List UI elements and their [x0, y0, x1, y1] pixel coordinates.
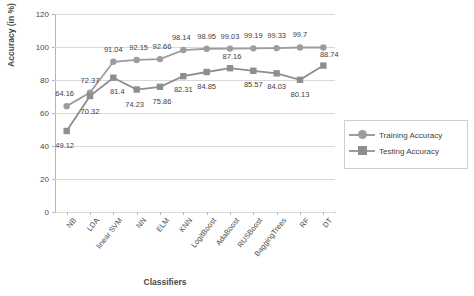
x-tick-mark — [113, 212, 114, 215]
data-point-label: 81.4 — [110, 86, 125, 95]
data-point-label: 92.66 — [153, 42, 172, 51]
chart-container: Accuracy (in %) Classifiers 020406080100… — [0, 0, 474, 296]
data-point-label: 74.23 — [125, 99, 144, 108]
x-tick-mark — [207, 212, 208, 215]
data-point-label: 82.31 — [174, 85, 193, 94]
data-point-marker — [227, 65, 233, 71]
data-point-marker — [157, 56, 163, 62]
legend-marker-square-icon — [349, 146, 375, 156]
data-point-marker — [273, 70, 279, 76]
x-tick-mark — [277, 212, 278, 215]
data-point-marker — [297, 44, 303, 50]
data-point-label: 49.12 — [55, 140, 74, 149]
data-point-label: 84.03 — [267, 82, 286, 91]
legend-item-training[interactable]: Training Accuracy — [349, 130, 463, 140]
legend-marker-circle-icon — [349, 130, 375, 140]
data-point-label: 92.15 — [129, 42, 148, 51]
data-point-label: 72.37 — [81, 75, 100, 84]
legend-label-testing: Testing Accuracy — [379, 147, 439, 156]
data-point-marker — [203, 69, 209, 75]
data-point-label: 91.04 — [104, 44, 123, 53]
legend-label-training: Training Accuracy — [379, 131, 442, 140]
x-tick-mark — [253, 212, 254, 215]
series-line — [67, 47, 324, 106]
data-point-label: 98.14 — [172, 33, 191, 42]
x-tick-label: DT — [321, 216, 334, 229]
x-tick-label: RF — [298, 216, 311, 229]
data-point-label: 70.32 — [81, 106, 100, 115]
data-point-marker — [133, 86, 139, 92]
x-tick-label: NB — [64, 216, 78, 230]
legend-item-testing[interactable]: Testing Accuracy — [349, 146, 463, 156]
data-point-marker — [250, 45, 256, 51]
x-tick-mark — [230, 212, 231, 215]
x-tick-label: KNN — [178, 216, 195, 234]
data-point-marker — [110, 74, 116, 80]
data-point-marker — [180, 47, 186, 53]
y-tick-label: 20 — [40, 175, 49, 184]
x-tick-label: LDA — [85, 216, 101, 233]
data-point-label: 87.16 — [223, 52, 242, 61]
data-point-marker — [297, 77, 303, 83]
series-line — [67, 66, 324, 131]
y-tick-label: 0 — [45, 208, 49, 217]
data-point-label: 84.85 — [197, 81, 216, 90]
data-point-label: 99.7 — [293, 30, 308, 39]
data-point-marker — [87, 93, 93, 99]
data-point-marker — [133, 57, 139, 63]
data-point-label: 88.74 — [320, 49, 339, 58]
data-point-label: 99.33 — [267, 31, 286, 40]
x-axis-title: Classifiers — [0, 277, 330, 287]
data-point-label: 99.19 — [244, 31, 263, 40]
data-point-marker — [203, 46, 209, 52]
x-tick-mark — [160, 212, 161, 215]
x-tick-mark — [137, 212, 138, 215]
x-tick-mark — [323, 212, 324, 215]
data-point-marker — [320, 62, 326, 68]
x-tick-mark — [90, 212, 91, 215]
x-tick-label: NN — [134, 216, 148, 230]
y-axis-title: Accuracy (in %) — [6, 0, 16, 95]
data-point-label: 99.03 — [221, 31, 240, 40]
y-tick-label: 120 — [36, 10, 49, 19]
data-point-label: 80.13 — [291, 89, 310, 98]
x-tick-mark — [67, 212, 68, 215]
data-point-marker — [273, 45, 279, 51]
x-tick-label: ELM — [155, 216, 172, 234]
data-point-label: 85.57 — [244, 79, 263, 88]
y-tick-label: 80 — [40, 76, 49, 85]
y-tick-label: 60 — [40, 109, 49, 118]
data-point-marker — [110, 59, 116, 65]
data-point-label: 64.16 — [55, 89, 74, 98]
data-point-marker — [157, 84, 163, 90]
data-point-marker — [63, 103, 69, 109]
y-tick-label: 40 — [40, 142, 49, 151]
x-tick-mark — [300, 212, 301, 215]
data-point-label: 98.95 — [197, 31, 216, 40]
data-point-marker — [250, 68, 256, 74]
y-tick-label: 100 — [36, 43, 49, 52]
data-point-marker — [63, 128, 69, 134]
chart-legend: Training Accuracy Testing Accuracy — [344, 120, 468, 169]
x-tick-mark — [183, 212, 184, 215]
data-point-label: 75.86 — [153, 96, 172, 105]
data-point-marker — [180, 73, 186, 79]
